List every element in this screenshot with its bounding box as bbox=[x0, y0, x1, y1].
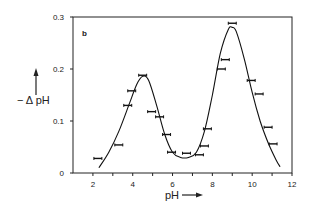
right-arrow-head-icon bbox=[196, 193, 203, 198]
x-tick-label: 2 bbox=[91, 180, 96, 189]
y-tick-label: 0.1 bbox=[53, 117, 65, 126]
data-point bbox=[228, 22, 236, 25]
data-point bbox=[221, 58, 229, 61]
y-tick-label: 0 bbox=[60, 169, 65, 178]
data-point bbox=[247, 79, 255, 82]
y-axis-title-group: − Δ pH bbox=[17, 68, 50, 106]
y-axis-title: − Δ pH bbox=[17, 94, 50, 106]
data-point bbox=[163, 133, 171, 136]
x-tick-label: 4 bbox=[131, 180, 136, 189]
data-point bbox=[148, 110, 156, 113]
data-point bbox=[255, 92, 263, 95]
data-point bbox=[264, 126, 272, 129]
y-axis-ticks: 00.10.20.3 bbox=[53, 13, 73, 178]
chart: 24681012 00.10.20.3 b − Δ pH pH bbox=[0, 0, 310, 212]
y-tick-label: 0.3 bbox=[53, 13, 65, 22]
data-point bbox=[183, 152, 191, 155]
fit-curve bbox=[99, 27, 280, 168]
data-point bbox=[115, 143, 123, 146]
y-tick-label: 0.2 bbox=[53, 65, 65, 74]
plot-frame bbox=[73, 17, 292, 173]
x-tick-label: 10 bbox=[248, 180, 257, 189]
x-axis-title-group: pH bbox=[165, 189, 203, 201]
x-axis-ticks: 24681012 bbox=[91, 173, 297, 189]
plot-border bbox=[73, 17, 292, 173]
data-point bbox=[94, 157, 102, 160]
x-tick-label: 6 bbox=[170, 180, 175, 189]
data-points bbox=[94, 22, 277, 160]
data-point bbox=[195, 153, 203, 156]
up-arrow-head-icon bbox=[34, 68, 39, 76]
panel-label: b bbox=[82, 29, 87, 38]
data-point bbox=[217, 68, 225, 71]
data-point bbox=[200, 144, 208, 147]
data-point bbox=[269, 142, 277, 145]
x-axis-title: pH bbox=[165, 189, 179, 201]
x-tick-label: 12 bbox=[288, 180, 297, 189]
x-tick-label: 8 bbox=[210, 180, 215, 189]
